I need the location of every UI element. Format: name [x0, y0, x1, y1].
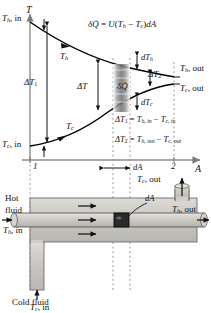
sch-hot-out-rest: , out — [180, 204, 196, 214]
th-in-rest: , in — [10, 13, 22, 23]
dA-axis-label: dA — [133, 163, 142, 172]
dt2-eq-t2-sub: c, out — [168, 138, 181, 144]
temperature-curves — [30, 22, 174, 146]
schematic-cold-in-label: Tc, in — [30, 303, 49, 312]
dt1-eq-lhs-sub: 1 — [125, 118, 128, 124]
dth-base: dT — [141, 52, 150, 62]
tc-out-label: Tc, out — [180, 84, 204, 93]
sch-hot-in-rest: , in — [11, 225, 23, 235]
tc-in-label: Tc, in — [2, 140, 21, 149]
delta-t2-base: ΔT — [148, 69, 158, 79]
heat-eq-minus: − — [128, 19, 133, 29]
cold-curve-arrow — [57, 135, 67, 141]
dt2-eq-lhs: ΔT — [115, 134, 125, 144]
heat-eq-dA: dA — [146, 19, 156, 29]
dA-element — [114, 213, 129, 227]
tc-in-rest: , in — [10, 139, 22, 149]
delta-t1-sub: 1 — [34, 81, 37, 87]
dt1-eq-t1-sub: h, in — [141, 118, 151, 124]
heat-rate-equation: δQ̇ = U(Th − Tc)dA — [88, 20, 156, 29]
dtc-base: dT — [141, 97, 150, 107]
x-tick-1: 1 — [33, 162, 38, 171]
dt1-eq-lhs: ΔT — [115, 114, 125, 124]
cold-curve-sub: c — [71, 125, 74, 131]
dtc-sub: c — [150, 101, 153, 107]
heat-exchanger-schematic — [2, 178, 209, 300]
y-axis-label: T — [26, 5, 32, 15]
cold-curve-label: Tc — [66, 122, 74, 131]
heat-exchanger-figure: T A 1 2 dA Th, in Tc, in Th, out Tc, out… — [0, 0, 211, 313]
delta-t2-equation: ΔT2 = Th, out − Tc, out — [115, 135, 181, 145]
figure-canvas — [0, 0, 211, 313]
th-in-label: Th, in — [2, 14, 22, 23]
delta-t-label: ΔT — [77, 82, 87, 91]
schematic-cold-out-label: Tc, out — [137, 175, 161, 184]
delta-t1-equation: ΔT1 = Th, in − Tc, in — [115, 115, 175, 125]
schematic-hot-in-label: Th, in — [3, 226, 23, 235]
heat-eq-th-sub: h — [123, 23, 126, 29]
dtc-label: dTc — [141, 98, 153, 108]
sch-cold-out-rest: , out — [145, 174, 161, 184]
sch-cold-in-rest: , in — [38, 302, 50, 312]
delta-t2-label: ΔT2 — [148, 70, 161, 79]
hot-fluid-label-line1: Hot — [5, 194, 19, 203]
delta-t1-base: ΔT — [24, 77, 34, 87]
dt2-eq-minus: − — [157, 134, 162, 144]
hot-tube — [14, 213, 204, 227]
dth-label: dTh — [141, 53, 153, 63]
dt1-eq-equals: = — [130, 114, 135, 124]
heat-eq-equals: = — [101, 19, 106, 29]
x-axis-label: A — [195, 164, 201, 174]
schematic-hot-out-label: Th, out — [172, 205, 196, 214]
dt2-eq-t1-sub: h, out — [141, 138, 154, 144]
dt1-eq-minus: − — [154, 114, 159, 124]
delta-t1-label: ΔT1 — [24, 78, 37, 87]
heat-eq-lhs: δQ̇ — [88, 19, 99, 29]
dt2-eq-lhs-sub: 2 — [125, 138, 128, 144]
tc-out-rest: , out — [188, 83, 204, 93]
x-tick-2: 2 — [171, 162, 176, 171]
dt2-eq-equals: = — [130, 134, 135, 144]
hot-fluid-label-line2: fluid — [5, 206, 22, 215]
hot-curve-sub: h — [65, 55, 68, 61]
hot-curve-label: Th — [60, 52, 68, 61]
dth-sub: h — [150, 56, 153, 62]
delta-t2-sub: 2 — [158, 73, 161, 79]
dt1-eq-t2-sub: c, in — [165, 118, 175, 124]
th-out-label: Th, out — [180, 64, 204, 73]
delta-qdot-strip-label: δQ̇ — [117, 82, 128, 91]
cold-inlet-leg — [30, 242, 44, 290]
th-out-rest: , out — [188, 63, 204, 73]
dA-element-label: dA — [145, 194, 154, 203]
